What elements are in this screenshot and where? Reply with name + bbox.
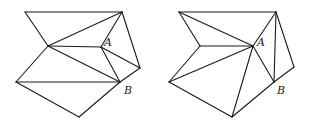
edge-Q7-Q8 [169, 82, 232, 117]
label-B: B [276, 84, 285, 97]
edge-Q2-Q5 [276, 12, 294, 67]
edge-A-Q8 [232, 46, 253, 117]
edge-Q3-Q7 [169, 46, 200, 82]
edge-Q8-B [232, 82, 274, 117]
label-A: A [256, 36, 265, 49]
left-figure: AB [16, 12, 140, 117]
edge-Q2-B [274, 12, 276, 82]
edge-P7-P8 [16, 82, 79, 117]
edge-P3-A [48, 46, 101, 47]
edge-Q7-A [169, 46, 253, 82]
edge-P5-B [120, 68, 140, 82]
edge-Q5-B [274, 67, 294, 82]
edge-P1-P3 [25, 12, 48, 46]
label-A: A [103, 36, 112, 49]
edge-P8-B [79, 82, 120, 117]
edge-P3-P7 [16, 46, 48, 82]
edge-A-B [253, 46, 274, 82]
label-B: B [123, 84, 132, 97]
right-figure: AB [169, 12, 294, 117]
diagram-canvas: AB AB [0, 0, 309, 126]
